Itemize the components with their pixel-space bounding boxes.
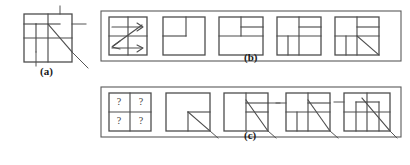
recon-3-diagonal (308, 100, 330, 131)
question-mark-top-left: ? (117, 96, 122, 107)
panel-a-diagram (14, 4, 94, 84)
split-level-2-cell (219, 17, 263, 55)
split-4-diagonal (357, 36, 379, 55)
panel-b: (b) (100, 10, 402, 62)
caption-a: (a) (40, 66, 53, 77)
panel-a: (a) (14, 4, 94, 84)
recon-step-1-cell (166, 93, 218, 138)
figure-root: (a) (0, 0, 410, 165)
caption-b: (b) (244, 52, 257, 63)
diagonal-overshoot-line (72, 52, 88, 68)
split-level-1-cell (163, 17, 205, 55)
split-level-4-cell (335, 17, 379, 55)
scan-order-cell (109, 17, 147, 55)
recon-2-diagonal (246, 100, 268, 131)
recon-4-diagonal (362, 98, 390, 131)
question-mark-top-right: ? (139, 96, 144, 107)
recon-step-4-cell (334, 93, 397, 138)
recon-1-diagonal (188, 112, 210, 131)
question-mark-bottom-left: ? (117, 115, 122, 126)
panel-c: ? ? ? ? (100, 86, 402, 142)
caption-c: (c) (244, 130, 256, 141)
split-level-3-cell (277, 17, 321, 55)
question-mark-bottom-right: ? (139, 115, 144, 126)
unknown-cell: ? ? ? ? (109, 93, 151, 131)
recon-step-3-cell (276, 93, 338, 138)
